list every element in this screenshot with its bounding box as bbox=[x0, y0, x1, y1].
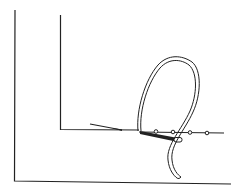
bead bbox=[154, 130, 158, 134]
bead bbox=[171, 130, 175, 134]
cord-end bbox=[177, 177, 181, 179]
bead bbox=[205, 131, 209, 135]
diagram bbox=[0, 0, 245, 195]
inner-frame bbox=[61, 15, 140, 130]
bead bbox=[188, 131, 192, 135]
outer-frame bbox=[15, 10, 232, 184]
looped-cord bbox=[138, 57, 200, 178]
